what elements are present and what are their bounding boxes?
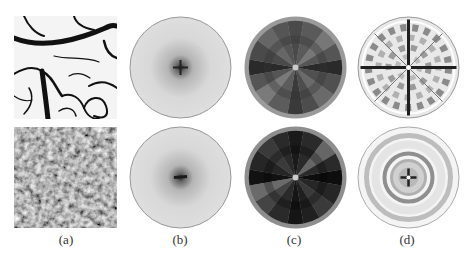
subfigure-label-c: (c) xyxy=(264,232,324,248)
subfigure-c-top-sectors xyxy=(244,16,347,119)
subfigure-label-b: (b) xyxy=(150,232,210,248)
subfigure-b-top-spectrum xyxy=(129,16,232,119)
subfigure-a-bottom-texture xyxy=(14,127,117,228)
subfigure-b-bottom-spectrum xyxy=(129,126,232,229)
subfigure-c-bottom-sectors xyxy=(244,126,347,229)
subfigure-label-a: (a) xyxy=(36,232,96,248)
subfigure-d-top-features xyxy=(357,16,460,119)
subfigure-a-top-texture xyxy=(14,16,117,119)
subfigure-d-bottom-features xyxy=(357,126,460,229)
subfigure-label-d: (d) xyxy=(377,232,437,248)
